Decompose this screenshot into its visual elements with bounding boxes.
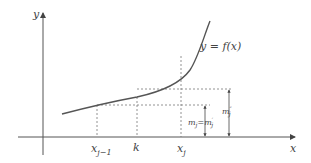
label-m-double-prime-j: m″j [222, 105, 233, 118]
tick-label-k: k [133, 141, 140, 154]
tick-label-x-j: xj [177, 142, 186, 157]
y-axis-label: y [32, 8, 40, 21]
label-m-j-equals-m-prime-j: mj=m′j [188, 116, 214, 129]
x-axis-label: x [290, 142, 297, 155]
curve-label: y = f(x) [199, 40, 241, 53]
horizontal-guides [97, 89, 232, 105]
curve-f-of-x [62, 21, 210, 114]
diagram-canvas: y x y = f(x) mj=m′j [0, 0, 311, 163]
tick-label-x-j-minus-1: xj−1 [91, 142, 112, 157]
